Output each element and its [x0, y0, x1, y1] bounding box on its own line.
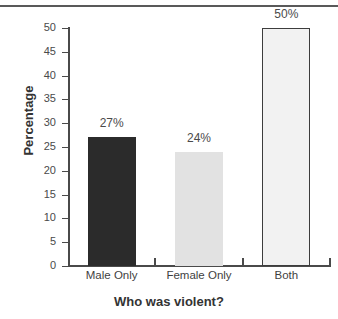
y-axis-tick	[62, 218, 68, 219]
x-axis-tick	[329, 258, 331, 267]
y-axis-tick-label: 50	[10, 22, 56, 33]
y-axis-tick	[62, 123, 68, 124]
y-axis-tick	[62, 76, 68, 77]
y-axis-tick-label: 25	[10, 141, 56, 152]
y-axis-tick-label: 15	[10, 189, 56, 200]
y-axis-tick	[62, 242, 68, 243]
x-axis-tick	[154, 258, 156, 267]
y-axis-tick	[62, 266, 68, 267]
y-axis-tick	[62, 195, 68, 196]
y-axis-tick-label: 5	[10, 236, 56, 247]
bar[interactable]	[175, 152, 223, 266]
y-axis-tick	[62, 147, 68, 148]
x-axis-category-label: Both	[236, 270, 336, 282]
y-axis-tick-label: 45	[10, 46, 56, 57]
y-axis-tick-label: 40	[10, 70, 56, 81]
x-axis-title: Who was violent?	[0, 294, 338, 309]
bar[interactable]	[262, 28, 310, 266]
y-axis-tick	[62, 52, 68, 53]
y-axis-tick-label: 35	[10, 93, 56, 104]
y-axis-tick-label: 30	[10, 117, 56, 128]
y-axis-tick	[62, 99, 68, 100]
x-axis-tick	[242, 258, 244, 267]
y-axis-tick-label: 10	[10, 212, 56, 223]
y-axis-line	[68, 27, 70, 267]
bar-value-label: 27%	[82, 117, 142, 129]
y-axis-tick-label: 0	[10, 260, 56, 271]
y-axis-tick-label: 20	[10, 165, 56, 176]
y-axis-tick	[62, 171, 68, 172]
bar-value-label: 50%	[256, 8, 316, 20]
bar[interactable]	[88, 137, 136, 266]
x-axis-category-label: Male Only	[62, 270, 162, 282]
x-axis-category-label: Female Only	[149, 270, 249, 282]
bar-value-label: 24%	[169, 132, 229, 144]
bar-chart-figure: Percentage 05101520253035404550 27%24%50…	[0, 0, 338, 319]
y-axis-tick	[62, 28, 68, 29]
